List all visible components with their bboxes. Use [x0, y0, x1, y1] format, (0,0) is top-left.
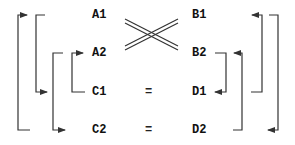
left-bracket-a1-c1 [36, 15, 47, 92]
diagram-canvas: A1 A2 C1 C2 B1 B2 D1 D2 = = [0, 0, 295, 145]
right-bracket-d1-b1 [251, 15, 262, 92]
label-b1: B1 [192, 9, 206, 21]
right-bracket-d2-b2 [233, 53, 242, 130]
left-bracket-a2-c2 [53, 53, 65, 130]
equals-sign-c2-d2: = [145, 124, 152, 136]
label-b2: B2 [192, 47, 206, 59]
right-bracket-b1-d2 [268, 15, 278, 130]
right-bracket-b2-d1 [215, 53, 226, 92]
label-c1: C1 [92, 86, 106, 98]
left-bracket-outer [18, 15, 30, 130]
label-d1: D1 [192, 86, 206, 98]
cross-symbol [125, 19, 178, 50]
left-bracket-c1-a2 [72, 53, 85, 92]
label-d2: D2 [192, 124, 206, 136]
label-a2: A2 [92, 47, 106, 59]
equals-sign-c1-d1: = [145, 86, 152, 98]
label-c2: C2 [92, 124, 106, 136]
label-a1: A1 [92, 9, 106, 21]
